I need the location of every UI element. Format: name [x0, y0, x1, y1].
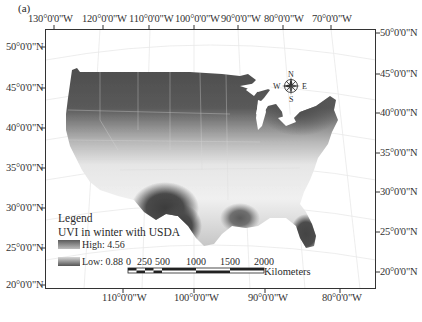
compass-n-label: N: [288, 70, 294, 79]
legend-layer-name: UVI in winter with USDA: [58, 226, 180, 238]
map-frame: [45, 29, 376, 289]
compass-s-label: S: [289, 95, 293, 104]
compass-w-label: W: [273, 82, 281, 91]
scale-label-1500: 1500: [220, 256, 240, 267]
scale-label-250: 250: [137, 256, 152, 267]
scale-label-0: 0: [126, 256, 131, 267]
scale-label-1000: 1000: [186, 256, 206, 267]
compass-e-label: E: [302, 82, 307, 91]
scale-label-500: 500: [155, 256, 170, 267]
scale-unit-label: Kilometers: [264, 266, 311, 277]
legend-low-label: Low: 0.88: [82, 256, 123, 267]
legend-title: Legend: [58, 212, 92, 224]
legend-high-label: High: 4.56: [82, 239, 125, 250]
